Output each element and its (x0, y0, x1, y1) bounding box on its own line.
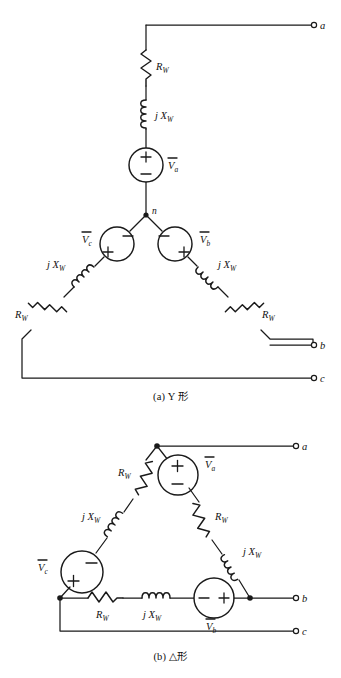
wire-lw-to-vc-delta (96, 538, 107, 553)
resistor-a-label: RW (155, 61, 169, 75)
wire-vb-to-lb (188, 257, 197, 266)
resistor-c-label: RW (14, 309, 28, 323)
inductor-right-delta-label: j XW (241, 546, 262, 560)
terminal-a-delta-label: a (302, 441, 307, 452)
caption-delta: (b) △形 (0, 648, 341, 663)
wire-apex-to-rw-left (146, 446, 157, 460)
terminal-c-delta[interactable] (293, 628, 298, 633)
resistor-b-wye (225, 288, 263, 326)
wire-lw-to-right-node (239, 580, 250, 598)
wire-va-to-rw-right (189, 488, 199, 502)
terminal-a-delta[interactable] (293, 443, 298, 448)
terminal-c-delta-label: c (302, 626, 307, 637)
terminal-b-delta[interactable] (293, 595, 298, 600)
inductor-c-label: j XW (45, 259, 66, 273)
delta-circuit-diagram: RW j XW Vc (0, 420, 341, 665)
wire-lb-to-rb (218, 287, 228, 297)
wire-n-to-vc (130, 215, 146, 231)
inductor-bottom-delta (142, 593, 170, 598)
terminal-b-delta-label: b (302, 593, 307, 604)
source-a-label: Va (168, 158, 178, 174)
source-c-delta-label: Vc (38, 560, 48, 576)
wye-circuit-diagram: RW j XW Va n (0, 0, 341, 385)
resistor-right-delta-label: RW (214, 511, 228, 525)
wire-rc-to-terminal-c (22, 330, 313, 378)
inductor-b-wye (194, 267, 218, 291)
resistor-left-delta-label: RW (117, 467, 131, 481)
resistor-bottom-delta (88, 592, 123, 602)
wire-n-to-vb (146, 215, 162, 231)
resistor-bottom-delta-label: RW (95, 609, 109, 623)
resistor-right-delta (189, 501, 211, 538)
inductor-b-label: j XW (216, 259, 237, 273)
inductor-a-wye (141, 100, 146, 129)
voltage-source-c-wye (100, 227, 134, 261)
terminal-a-wye[interactable] (311, 22, 316, 27)
wire-lc-to-rc (64, 287, 74, 297)
terminal-a-wye-label: a (320, 20, 325, 31)
wire-rb-to-terminal-b (261, 330, 313, 345)
inductor-right-delta (220, 555, 238, 582)
resistor-a-wye (141, 50, 151, 86)
resistor-b-label: RW (261, 309, 275, 323)
source-b-label: Vb (200, 232, 210, 248)
terminal-c-wye[interactable] (311, 375, 316, 380)
svg-text:Va: Va (205, 459, 215, 473)
terminal-b-wye-label: b (320, 340, 325, 351)
terminal-c-wye-label: c (320, 373, 325, 384)
inductor-left-delta (103, 510, 123, 536)
svg-text:Va: Va (168, 160, 178, 174)
svg-text:Vb: Vb (206, 621, 216, 635)
inductor-c-wye (70, 263, 94, 287)
wire-vc-to-lc (95, 257, 104, 266)
resistor-c-wye (28, 288, 66, 326)
voltage-source-b-wye (158, 227, 192, 261)
source-c-label: Vc (82, 232, 92, 248)
inductor-a-label: j XW (153, 110, 174, 124)
resistor-left-delta (134, 459, 156, 496)
source-b-delta-label: Vb (206, 619, 216, 635)
voltage-source-c-delta (61, 551, 103, 593)
terminal-b-wye[interactable] (311, 342, 316, 347)
wire-rw-to-lw-left (124, 499, 133, 512)
inductor-left-delta-label: j XW (80, 511, 101, 525)
wire-rw-to-lw-right (212, 540, 222, 554)
svg-text:Vb: Vb (200, 234, 210, 248)
svg-text:Vc: Vc (38, 562, 48, 576)
figure-root: RW j XW Va n (0, 0, 341, 678)
neutral-node-label: n (152, 206, 157, 216)
caption-wye: (a) Y 形 (0, 388, 341, 403)
inductor-bottom-delta-label: j XW (141, 609, 162, 623)
svg-text:Vc: Vc (82, 234, 92, 248)
source-a-delta-label: Va (205, 457, 215, 473)
